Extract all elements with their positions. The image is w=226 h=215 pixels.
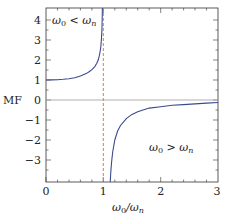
y-tick-label: 0 [34,94,41,107]
x-tick-label: 3 [214,185,221,198]
y-tick-label: −3 [25,154,41,167]
x-tick-label: 0 [43,185,50,198]
annotation-above-resonance: ω0 > ωn [149,141,193,155]
y-tick-label: −1 [25,114,41,127]
x-minor-ticks [46,8,207,182]
annotation-below-resonance: ω0 < ωn [52,14,96,28]
y-tick-label: 3 [34,34,41,47]
chart: 4 3 2 1 0 −1 −2 −3 0 1 2 3 MF ω0/ωn ω0 <… [0,0,226,215]
y-tick-label: −2 [25,134,41,147]
y-tick-label: 2 [34,54,41,67]
x-axis-label: ω0/ωn [112,201,144,215]
x-tick-label: 1 [100,185,107,198]
y-tick-label: 4 [34,14,41,27]
y-axis-label: MF [3,94,22,107]
x-tick-label: 2 [157,185,164,198]
plot-frame [46,8,218,182]
y-tick-label: 1 [34,74,41,87]
